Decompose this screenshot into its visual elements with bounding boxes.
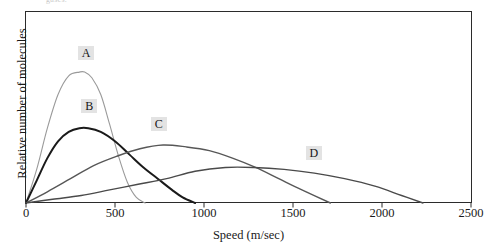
- x-tick-label-1500: 1500: [281, 206, 306, 221]
- x-axis-title: Speed (m/sec): [25, 228, 472, 243]
- x-tick-label-2500: 2500: [459, 206, 484, 221]
- curve-a: [26, 72, 145, 203]
- distribution-curves-svg: [0, 0, 487, 252]
- x-tick-label-1000: 1000: [192, 206, 217, 221]
- x-axis-ticks-group: [26, 203, 471, 208]
- curve-label-a: A: [78, 46, 95, 60]
- chart-page: gases. Relative number of molecules Spee…: [0, 0, 487, 252]
- curve-label-d: D: [306, 146, 323, 160]
- y-axis-title: Relative number of molecules: [15, 9, 30, 199]
- x-tick-label-0: 0: [23, 206, 29, 221]
- curve-d: [26, 167, 423, 203]
- curves-group: [26, 72, 423, 203]
- curve-label-b: B: [81, 99, 97, 113]
- x-tick-label-2000: 2000: [370, 206, 395, 221]
- curve-b: [26, 128, 195, 203]
- curve-label-c: C: [151, 117, 167, 131]
- x-tick-label-500: 500: [106, 206, 125, 221]
